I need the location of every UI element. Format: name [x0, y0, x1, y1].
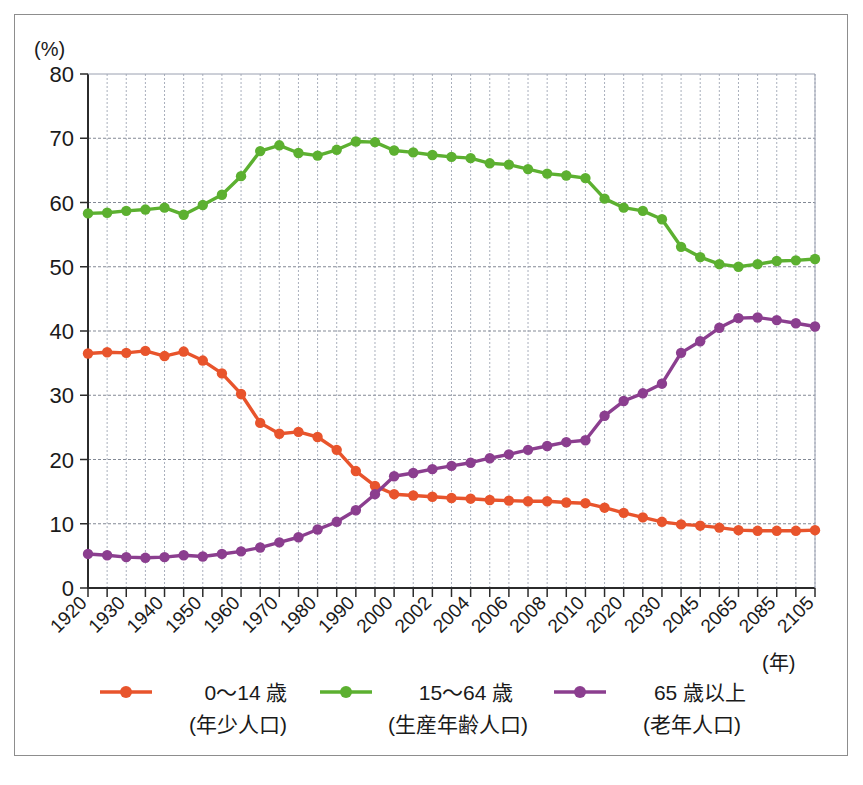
data-point-marker	[236, 389, 246, 399]
data-point-marker	[695, 252, 705, 262]
grid-layer	[88, 74, 815, 588]
data-point-marker	[618, 396, 628, 406]
data-point-marker	[676, 348, 686, 358]
y-axis-unit-label: (%)	[34, 38, 65, 60]
data-point-marker	[810, 525, 820, 535]
data-point-marker	[542, 496, 552, 506]
x-tick-label: 2105	[773, 592, 818, 637]
data-point-marker	[198, 551, 208, 561]
legend-item-sublabel: (生産年齢人口)	[388, 713, 528, 736]
data-point-marker	[523, 496, 533, 506]
data-point-marker	[446, 461, 456, 471]
legend-swatch-marker	[340, 686, 352, 698]
data-point-marker	[485, 495, 495, 505]
data-point-marker	[523, 445, 533, 455]
data-point-marker	[178, 346, 188, 356]
data-point-marker	[695, 520, 705, 530]
x-tick-label: 2004	[429, 592, 474, 637]
data-point-marker	[427, 492, 437, 502]
data-point-marker	[178, 550, 188, 560]
legend-item-label: 15〜64 歳	[419, 681, 514, 704]
data-point-marker	[217, 190, 227, 200]
data-point-marker	[714, 323, 724, 333]
data-point-marker	[676, 242, 686, 252]
x-tick-label: 2008	[505, 592, 550, 637]
y-tick-label: 30	[50, 383, 74, 408]
x-tick-label: 1990	[314, 592, 359, 637]
data-point-marker	[772, 526, 782, 536]
data-point-marker	[733, 262, 743, 272]
x-tick-label: 1940	[123, 592, 168, 637]
data-point-marker	[427, 464, 437, 474]
data-point-marker	[389, 489, 399, 499]
data-point-marker	[752, 312, 762, 322]
data-point-marker	[140, 553, 150, 563]
x-tick-label-layer: 1920193019401950196019701980199020002002…	[46, 592, 818, 637]
legend-swatch-marker	[120, 686, 132, 698]
data-point-marker	[83, 348, 93, 358]
data-point-marker	[217, 549, 227, 559]
legend-swatch-marker	[574, 686, 586, 698]
x-tick-label: 2030	[620, 592, 665, 637]
x-tick-label: 2000	[352, 592, 397, 637]
data-point-marker	[351, 136, 361, 146]
x-tick-label: 2045	[658, 592, 703, 637]
data-point-marker	[504, 495, 514, 505]
data-point-marker	[733, 525, 743, 535]
data-point-marker	[695, 336, 705, 346]
legend-item[interactable]: 0〜14 歳(年少人口)	[100, 681, 287, 736]
x-tick-label: 2085	[735, 592, 780, 637]
data-point-marker	[293, 427, 303, 437]
data-point-marker	[465, 493, 475, 503]
x-tick-label: 2006	[467, 592, 512, 637]
legend-item[interactable]: 15〜64 歳(生産年齢人口)	[320, 681, 528, 736]
data-point-marker	[580, 173, 590, 183]
y-tick-label-layer: 01020304050607080	[50, 62, 74, 601]
data-point-marker	[465, 458, 475, 468]
data-point-marker	[312, 524, 322, 534]
data-point-marker	[332, 445, 342, 455]
legend: 0〜14 歳(年少人口)15〜64 歳(生産年齢人口)65 歳以上(老年人口)	[100, 681, 746, 736]
data-point-marker	[561, 437, 571, 447]
data-point-marker	[140, 204, 150, 214]
data-point-marker	[408, 490, 418, 500]
data-point-marker	[83, 208, 93, 218]
y-tick-label: 10	[50, 512, 74, 537]
data-point-marker	[733, 313, 743, 323]
data-point-marker	[599, 193, 609, 203]
data-point-marker	[485, 453, 495, 463]
data-point-marker	[274, 140, 284, 150]
data-point-marker	[446, 152, 456, 162]
data-point-marker	[312, 432, 322, 442]
x-tick-label: 2065	[697, 592, 742, 637]
x-tick-label: 1980	[276, 592, 321, 637]
y-tick-label: 50	[50, 255, 74, 280]
population-ratio-figure: 01020304050607080 1920193019401950196019…	[0, 0, 863, 785]
data-point-marker	[236, 171, 246, 181]
data-point-marker	[102, 347, 112, 357]
x-tick-label: 2002	[390, 592, 435, 637]
data-point-marker	[810, 254, 820, 264]
data-point-marker	[638, 206, 648, 216]
data-point-marker	[408, 468, 418, 478]
data-point-marker	[217, 368, 227, 378]
data-point-marker	[561, 497, 571, 507]
data-point-marker	[274, 429, 284, 439]
data-point-marker	[791, 318, 801, 328]
data-point-marker	[351, 505, 361, 515]
data-point-marker	[561, 170, 571, 180]
legend-item[interactable]: 65 歳以上(老年人口)	[554, 681, 746, 736]
data-point-marker	[485, 158, 495, 168]
data-point-marker	[332, 145, 342, 155]
x-tick-label: 2010	[544, 592, 589, 637]
legend-item-sublabel: (老年人口)	[643, 713, 741, 736]
data-point-marker	[810, 321, 820, 331]
axis-layer	[80, 74, 815, 597]
data-point-marker	[542, 441, 552, 451]
data-point-marker	[542, 168, 552, 178]
data-point-marker	[255, 418, 265, 428]
legend-item-label: 65 歳以上	[654, 681, 746, 704]
data-point-marker	[523, 164, 533, 174]
x-tick-label: 1930	[84, 592, 129, 637]
data-point-marker	[791, 255, 801, 265]
